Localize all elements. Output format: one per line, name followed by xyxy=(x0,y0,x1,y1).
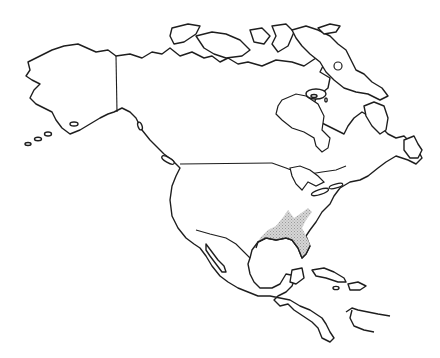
yucatan-peninsula xyxy=(290,268,304,284)
arctic-island-3 xyxy=(250,28,270,44)
arctic-island-2 xyxy=(196,32,250,58)
north-america-map xyxy=(0,0,440,358)
arctic-island-1 xyxy=(170,24,200,44)
baffin-lake xyxy=(334,62,342,70)
aleutian-1 xyxy=(25,143,31,146)
arctic-island-4 xyxy=(272,24,294,52)
south-america-coast xyxy=(346,308,390,316)
hudson-islet-2 xyxy=(325,98,327,102)
newfoundland xyxy=(404,136,422,158)
jamaica xyxy=(333,286,339,289)
aleutian-3 xyxy=(45,132,52,136)
cuba xyxy=(312,268,346,282)
hudson-islet-1 xyxy=(311,95,317,98)
south-america-coast-2 xyxy=(350,310,374,332)
aleutian-2 xyxy=(35,137,42,141)
hispaniola xyxy=(348,282,366,290)
kodiak-island xyxy=(70,122,78,126)
